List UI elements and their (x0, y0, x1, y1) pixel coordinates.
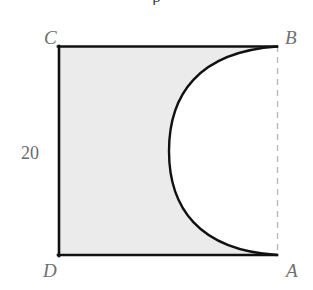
geometry-figure: p C B D A 20 (0, 0, 313, 290)
vertex-label-A: A (286, 261, 298, 280)
vertex-label-B: B (285, 28, 297, 47)
vertex-label-D: D (43, 261, 57, 280)
side-length-label: 20 (21, 144, 39, 162)
vertex-label-C: C (44, 28, 57, 47)
shaded-region (58, 46, 277, 256)
